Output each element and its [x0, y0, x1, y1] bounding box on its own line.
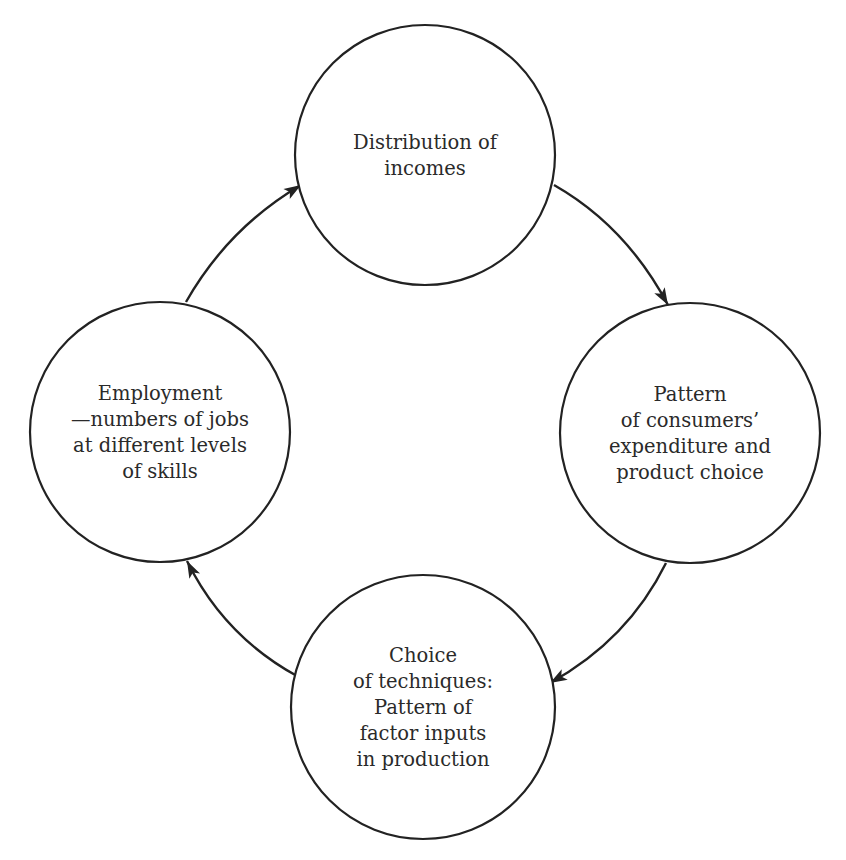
node-label-line: —numbers of jobs — [71, 408, 249, 431]
node-employment: Employment—numbers of jobsat different l… — [30, 302, 290, 562]
node-label-line: product choice — [616, 461, 763, 484]
node-circle — [560, 303, 820, 563]
node-circle — [295, 25, 555, 285]
node-label-line: of techniques: — [353, 670, 493, 693]
edge-employment-to-distribution-of-incomes — [186, 180, 304, 302]
node-circle — [30, 302, 290, 562]
node-distribution-of-incomes: Distribution ofincomes — [295, 25, 555, 285]
nodes: Distribution ofincomesPatternof consumer… — [30, 25, 820, 839]
connector-line — [186, 185, 301, 302]
node-label-line: expenditure and — [609, 435, 771, 458]
connector-line — [550, 563, 666, 683]
connector-line — [554, 185, 668, 305]
node-choice-of-techniques: Choiceof techniques:Pattern offactor inp… — [291, 575, 555, 839]
edge-distribution-of-incomes-to-consumer-expenditure — [554, 185, 673, 308]
node-label-line: Employment — [98, 382, 223, 405]
arrowhead-icon — [182, 558, 200, 579]
node-label-line: Pattern of — [374, 696, 474, 719]
edge-consumer-expenditure-to-choice-of-techniques — [547, 563, 666, 688]
node-label-line: of skills — [122, 460, 198, 483]
node-label-line: at different levels — [73, 434, 247, 457]
node-label-line: Pattern — [654, 383, 727, 406]
node-consumer-expenditure: Patternof consumers’expenditure andprodu… — [560, 303, 820, 563]
node-label-line: Distribution of — [353, 131, 499, 154]
node-label-line: factor inputs — [360, 722, 487, 745]
node-label-line: of consumers’ — [621, 409, 760, 432]
income-employment-cycle-diagram: Distribution ofincomesPatternof consumer… — [0, 0, 846, 860]
node-label-line: Choice — [389, 644, 457, 667]
node-label-line: incomes — [384, 157, 466, 180]
connector-line — [187, 561, 297, 676]
edge-choice-of-techniques-to-employment — [182, 558, 297, 676]
node-label-line: in production — [357, 748, 490, 771]
